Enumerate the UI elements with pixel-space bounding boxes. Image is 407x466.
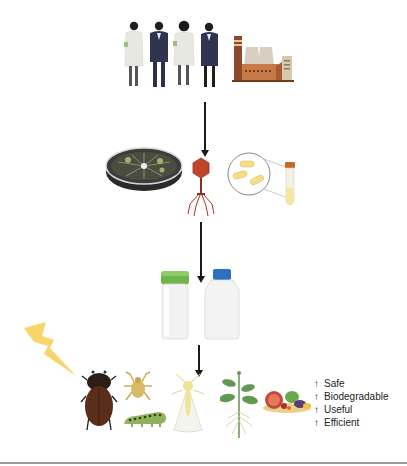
beetle-icon [80,368,118,438]
plant-with-roots-icon [220,370,258,442]
scientists-group [122,20,222,92]
business-person-icon [201,23,218,87]
bacteriophage-icon [186,156,216,218]
arrow-up-icon: ↑ [314,390,324,403]
arrow-up-icon: ↑ [314,377,324,390]
benefit-efficient: ↑Efficient [314,416,389,429]
scientist-labcoat-icon [124,22,143,86]
fruits-vegetables-icon [262,388,312,414]
petri-dish-icon [104,142,184,194]
arrow-up-icon: ↑ [314,403,324,416]
blue-cap-bottle-icon [203,268,241,340]
benefit-label: Safe [324,378,345,389]
business-person-icon [150,22,168,87]
tick-icon [120,368,156,408]
benefit-label: Useful [324,404,352,415]
factory-icon [232,34,294,84]
lightning-bolt-icon [22,322,78,377]
arrow-shaft [198,345,200,372]
benefits-list: ↑Safe ↑Biodegradable ↑Useful ↑Efficient [314,377,389,429]
benefit-label: Biodegradable [324,391,389,402]
arrow-up-icon: ↑ [314,416,324,429]
arrow-shaft [204,102,206,152]
arrow-shaft [200,222,202,277]
scientist-labcoat-icon [173,21,194,85]
caterpillar-icon [122,406,168,428]
whitefly-icon [170,372,206,434]
benefit-biodegradable: ↑Biodegradable [314,390,389,403]
green-cap-bottle-icon [160,270,190,340]
benefit-useful: ↑Useful [314,403,389,416]
benefit-safe: ↑Safe [314,377,389,390]
bacteria-culture-icon [226,150,306,212]
bottom-divider [0,462,407,464]
benefit-label: Efficient [324,417,359,428]
